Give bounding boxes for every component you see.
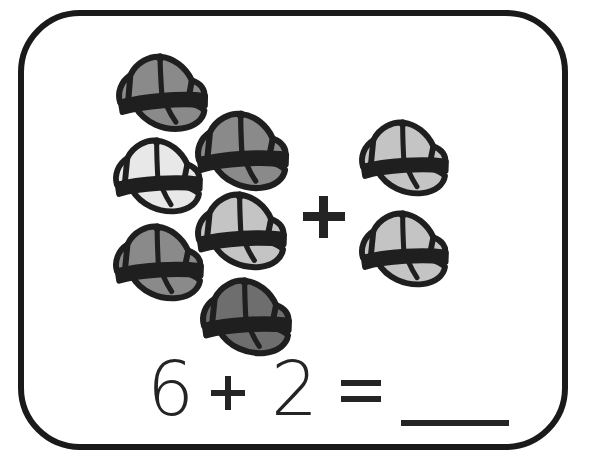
baseball-cap-icon (349, 204, 455, 293)
plus-vertical-bar (319, 196, 328, 238)
equation-answer-blank[interactable] (401, 420, 509, 426)
equation-equals-icon (341, 380, 381, 406)
baseball-cap-icon (349, 113, 455, 202)
plus-operator-icon (303, 196, 345, 238)
equation-addend-two: 2 (271, 352, 318, 426)
equation-answer-value (129, 352, 130, 353)
equals-top-bar (341, 380, 381, 386)
equation-row: 6 2 (129, 352, 529, 442)
worksheet-card: 6 2 (18, 10, 568, 450)
equation-plus-icon (211, 376, 245, 410)
equation-plus-vertical-bar (225, 376, 231, 410)
equation-addend-one: 6 (147, 352, 194, 426)
equals-bottom-bar (341, 396, 381, 402)
